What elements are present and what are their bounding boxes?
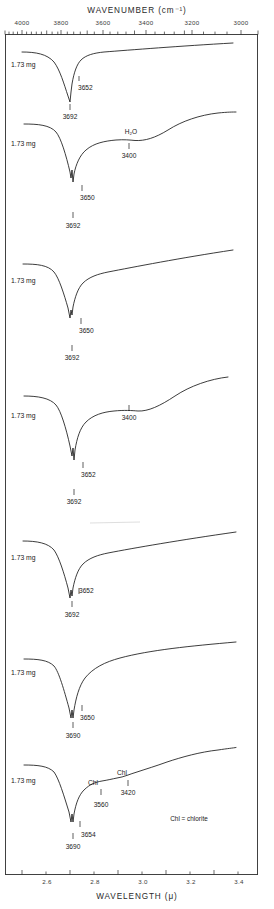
spectrum-trace-3: [23, 250, 233, 318]
spectrum-panel-4: 1.73 mg 3400 3652 3692: [11, 377, 228, 505]
spectrum-panel-6: 1.73 mg 3650 3690: [11, 642, 236, 739]
panel-2-peak-label-3650: 3650: [80, 194, 95, 201]
panel-1-peak-label-3652: 3652: [78, 84, 93, 91]
top-tick-label-3200: 3200: [185, 19, 200, 26]
top-axis-ticks: [5, 30, 258, 35]
panel-5-peak-label-3652: 3652: [79, 587, 94, 594]
panel-2-peak-label-3400: 3400: [122, 152, 137, 159]
panel-5-mass-label: 1.73 mg: [11, 554, 36, 562]
panel-2-species-label-h2o: H₂O: [125, 128, 137, 135]
panel-7-peak-label-3654: 3654: [81, 831, 96, 838]
panel-3-peak-label-3692: 3692: [65, 354, 80, 361]
panel-6-mass-label: 1.73 mg: [11, 669, 36, 677]
top-tick-label-3000: 3000: [234, 19, 249, 26]
bottom-tick-label-2-8: 2.8: [90, 878, 100, 885]
panel-4-peak-label-3652: 3652: [81, 471, 96, 478]
bottom-axis-tick-labels: 2.6 2.8 3.0 3.2 3.4: [42, 878, 244, 885]
bottom-axis-title: WAVELENGTH (μ): [96, 892, 177, 901]
panel-4-peak-label-3692: 3692: [67, 498, 82, 505]
top-axis-title: WAVENUMBER (cm⁻¹): [87, 6, 186, 15]
bottom-tick-label-2-6: 2.6: [42, 878, 52, 885]
panel-5-peak-label-3692: 3692: [65, 611, 80, 618]
spectrum-panel-3: 1.73 mg 3650 3692: [11, 250, 233, 361]
bottom-tick-label-3-2: 3.2: [186, 878, 196, 885]
panel-6-peak-label-3690: 3690: [66, 732, 81, 739]
panel-7-peak-label-3690: 3690: [66, 843, 81, 850]
bottom-tick-label-3-0: 3.0: [138, 878, 148, 885]
top-tick-label-3600: 3600: [96, 19, 111, 26]
panel-7-peak-label-3560: 3560: [94, 801, 109, 808]
bottom-axis-ticks: [22, 870, 238, 875]
spectrum-panel-1: 1.73 mg 3652 3692: [11, 43, 233, 120]
spectrum-trace-1: [22, 43, 233, 102]
bottom-tick-label-3-4: 3.4: [234, 878, 244, 885]
panel-4-mass-label: 1.73 mg: [11, 412, 36, 420]
panel-6-peak-label-3650: 3650: [80, 714, 95, 721]
spectrum-trace-2: [24, 112, 236, 182]
top-tick-label-3400: 3400: [139, 19, 154, 26]
panel-1-mass-label: 1.73 mg: [11, 61, 36, 69]
spectrum-panel-5: 1.73 mg 3652 3692: [11, 532, 236, 618]
figure-canvas: WAVENUMBER (cm⁻¹) 4000 3800 3600 3400 32…: [0, 0, 274, 909]
spectrum-panel-2: 1.73 mg H₂O 3400 3650 3692: [11, 112, 236, 229]
panel-7-peak-label-3420: 3420: [121, 789, 136, 796]
panel-2-mass-label: 1.73 mg: [11, 140, 36, 148]
panel-7-species-label-chl-3420: Chl: [117, 769, 127, 776]
spectrum-trace-5: [23, 532, 236, 598]
legend-chlorite-note: Chl = chlorite: [170, 815, 208, 822]
panel-1-peak-label-3692: 3692: [63, 113, 78, 120]
ir-spectra-figure: WAVENUMBER (cm⁻¹) 4000 3800 3600 3400 32…: [0, 0, 274, 909]
scan-artifact-line: [90, 522, 140, 523]
panel-3-peak-label-3650: 3650: [79, 327, 94, 334]
spectrum-trace-7: [24, 748, 236, 823]
panel-3-mass-label: 1.73 mg: [11, 277, 36, 285]
panel-4-peak-label-3400: 3400: [122, 414, 137, 421]
top-axis-tick-labels: 4000 3800 3600 3400 3200 3000: [15, 19, 249, 26]
top-tick-label-4000: 4000: [15, 19, 30, 26]
top-tick-label-3800: 3800: [54, 19, 69, 26]
spectrum-trace-6: [24, 642, 236, 718]
panel-7-species-label-chl-3560: Chl: [88, 779, 98, 786]
panel-2-peak-label-3692: 3692: [66, 222, 81, 229]
panel-7-mass-label: 1.73 mg: [11, 777, 36, 785]
spectrum-panel-7: 1.73 mg Chl 3560 Chl 3420 3654 3690 Chl …: [11, 748, 236, 851]
